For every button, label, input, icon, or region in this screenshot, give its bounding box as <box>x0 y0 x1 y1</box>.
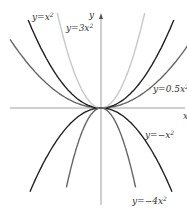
label-3x2: y=3x2 <box>65 22 93 33</box>
y-axis-arrow-icon <box>99 13 103 19</box>
label-neg-x2: y=−x2 <box>144 129 174 140</box>
parabola-chart: y x y=x2 y=3x2 y=0.5x2 y=−x2 y=−4x2 <box>0 0 187 211</box>
label-x2: y=x2 <box>31 11 54 22</box>
label-neg-4x2: y=−4x2 <box>131 195 167 206</box>
label-0.5x2: y=0.5x2 <box>152 83 187 94</box>
x-axis-label: x <box>183 111 187 121</box>
y-axis-label: y <box>88 10 95 20</box>
